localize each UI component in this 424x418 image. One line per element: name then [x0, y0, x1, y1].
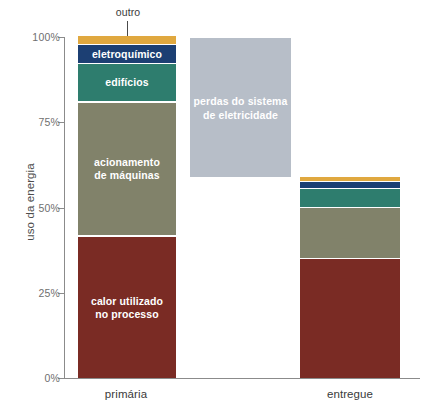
segment-primaria-edificios[interactable]: edifícios: [78, 64, 176, 101]
losses-label-line1: perdas do sistema: [194, 95, 288, 107]
segment-entregue-calor[interactable]: [300, 259, 400, 378]
x-axis-label-entregue: entregue: [300, 388, 400, 400]
segment-entregue-edificios[interactable]: [300, 189, 400, 207]
segment-label-calor-line2: no processo: [95, 308, 159, 320]
segment-label-edificios: edifícios: [103, 76, 151, 89]
segment-label-acionamento-line1: acionamento: [94, 156, 160, 168]
outro-callout-label: outro: [96, 6, 160, 18]
electricity-losses-label: perdas do sistema de eletricidade: [194, 94, 288, 122]
segment-entregue-eletroquimico[interactable]: [300, 182, 400, 188]
segment-label-calor: calor utilizado no processo: [89, 295, 165, 321]
y-tick-label-25: 25%: [4, 288, 60, 298]
outro-leader-line: [127, 21, 128, 36]
bar-entregue[interactable]: [300, 177, 400, 378]
segment-primaria-acionamento[interactable]: acionamento de máquinas: [78, 103, 176, 235]
segment-entregue-acionamento[interactable]: [300, 208, 400, 258]
segment-entregue-outro[interactable]: [300, 177, 400, 181]
y-tick-label-0: 0%: [4, 373, 60, 383]
segment-label-acionamento: acionamento de máquinas: [92, 156, 162, 182]
x-axis-line: [64, 378, 420, 379]
y-axis-title: uso da energia: [24, 142, 36, 262]
segment-label-acionamento-line2: de máquinas: [94, 169, 159, 181]
y-tick-label-100: 100%: [4, 32, 60, 42]
x-axis-label-primaria: primária: [76, 388, 176, 400]
losses-label-line2: de eletricidade: [203, 109, 278, 121]
y-tick-label-75: 75%: [4, 117, 60, 127]
segment-primaria-eletroquimico[interactable]: eletroquímico: [78, 45, 176, 63]
segment-label-calor-line1: calor utilizado: [91, 295, 163, 307]
y-axis-line: [64, 37, 65, 379]
chart-canvas: 100% 75% 50% 25% 0% uso da energia outro…: [0, 0, 424, 418]
electricity-losses-box[interactable]: perdas do sistema de eletricidade: [190, 38, 291, 177]
segment-primaria-calor[interactable]: calor utilizado no processo: [78, 237, 176, 378]
segment-label-eletroquimico: eletroquímico: [90, 48, 164, 61]
segment-primaria-outro[interactable]: [78, 36, 176, 44]
bar-primaria[interactable]: eletroquímico edifícios acionamento de m…: [78, 36, 176, 378]
